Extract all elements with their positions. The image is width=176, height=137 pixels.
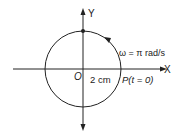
radius-label: 2 cm — [90, 74, 111, 85]
top-point-dot — [81, 29, 85, 33]
y-axis-down-arrow-icon — [81, 124, 86, 131]
circular-motion-diagram: Y X O 2 cm ω = π rad/s P(t = 0) — [0, 0, 176, 137]
y-axis-label: Y — [88, 8, 95, 19]
angular-velocity-label: ω = π rad/s — [119, 48, 166, 58]
origin-label: O — [74, 71, 82, 82]
point-p-label: P(t = 0) — [122, 74, 153, 85]
x-axis-label: X — [164, 64, 171, 75]
y-axis-arrow-icon — [81, 8, 86, 15]
